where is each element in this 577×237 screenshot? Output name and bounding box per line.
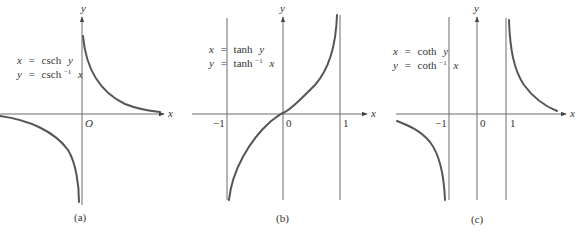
y-axis-label: y <box>80 2 86 14</box>
hyperbolic-inverse-graphs: y x O x = csch y y = csch −1 x (a) y x −… <box>0 0 577 237</box>
tick-label-0: 0 <box>480 117 486 129</box>
equation-y-csch-inverse: y = csch −1 x <box>16 64 83 80</box>
panel-b-tanh: y x −1 0 1 x = tanh y y = tanh −1 x (b) <box>192 2 376 225</box>
csch-inverse-positive-branch <box>83 36 160 112</box>
tick-label-1: 1 <box>343 117 349 129</box>
caption-c: (c) <box>471 213 484 226</box>
y-axis-label: y <box>279 2 285 14</box>
y-axis-label: y <box>473 2 479 14</box>
caption-b: (b) <box>276 212 289 225</box>
origin-label: O <box>85 117 93 129</box>
tick-label-neg1: −1 <box>435 117 447 129</box>
x-axis-label: x <box>167 107 173 119</box>
panel-a-csch: y x O x = csch y y = csch −1 x (a) <box>0 2 173 224</box>
x-axis-label: x <box>370 107 376 119</box>
x-axis-label: x <box>569 107 575 119</box>
coth-inverse-negative-branch <box>397 121 445 200</box>
equation-x-csch: x = csch y <box>16 54 73 66</box>
equation-x-coth: x = coth y <box>392 45 448 57</box>
coth-inverse-positive-branch <box>509 20 557 111</box>
equation-y-tanh-inverse: y = tanh −1 x <box>208 53 275 69</box>
tick-label-neg1: −1 <box>213 117 225 129</box>
tick-label-1: 1 <box>510 117 516 129</box>
panel-c-coth: y x −1 0 1 x = coth y y = coth −1 x (c) <box>392 2 575 226</box>
equation-x-tanh: x = tanh y <box>208 43 264 55</box>
csch-inverse-negative-branch <box>0 116 79 202</box>
tick-label-0: 0 <box>286 117 292 129</box>
caption-a: (a) <box>74 211 87 224</box>
